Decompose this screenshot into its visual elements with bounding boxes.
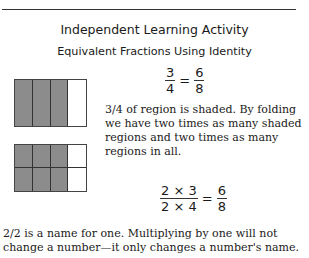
- fraction-model-fourths: [14, 79, 87, 127]
- equation-three-fourths-equals-six-eighths: 3 4 = 6 8: [165, 66, 204, 95]
- equals-sign: =: [179, 73, 190, 88]
- shaded-region: [33, 145, 51, 168]
- numerator: 3: [165, 66, 175, 81]
- page-subtitle: Equivalent Fractions Using Identity: [0, 45, 309, 58]
- fraction: 6 8: [217, 184, 227, 213]
- shaded-region: [51, 168, 69, 191]
- numerator-product: 2 × 3: [160, 184, 198, 199]
- denominator: 4: [166, 81, 174, 95]
- shaded-region: [33, 168, 51, 191]
- numerator: 6: [217, 184, 227, 199]
- fraction: 6 8: [194, 66, 204, 95]
- denominator: 8: [218, 199, 226, 213]
- shaded-region: [51, 80, 69, 126]
- shaded-region: [15, 168, 33, 191]
- fraction-product: 2 × 3 2 × 4: [160, 184, 198, 213]
- page-title: Independent Learning Activity: [0, 22, 309, 37]
- explanation-text: 3/4 of region is shaded. By folding we h…: [105, 103, 309, 159]
- shaded-region: [33, 80, 51, 126]
- shaded-region: [51, 145, 69, 168]
- denominator-product: 2 × 4: [161, 199, 197, 213]
- fraction: 3 4: [165, 66, 175, 95]
- unshaded-region: [68, 145, 86, 168]
- denominator: 8: [195, 81, 203, 95]
- shaded-region: [15, 145, 33, 168]
- equals-sign: =: [202, 191, 213, 206]
- fraction-model-eighths: [14, 144, 87, 192]
- conclusion-text: 2/2 is a name for one. Multiplying by on…: [3, 227, 309, 255]
- equation-identity-multiplication: 2 × 3 2 × 4 = 6 8: [160, 184, 227, 213]
- numerator: 6: [194, 66, 204, 81]
- unshaded-region: [68, 168, 86, 191]
- header-rule: [2, 9, 296, 10]
- shaded-region: [15, 80, 33, 126]
- unshaded-region: [68, 80, 86, 126]
